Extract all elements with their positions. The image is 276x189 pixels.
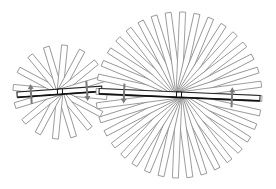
small-fan — [13, 45, 107, 139]
fan-diagram — [0, 0, 276, 189]
hub-icon — [57, 89, 62, 94]
hub-icon — [176, 92, 181, 97]
large-fan — [96, 12, 262, 178]
